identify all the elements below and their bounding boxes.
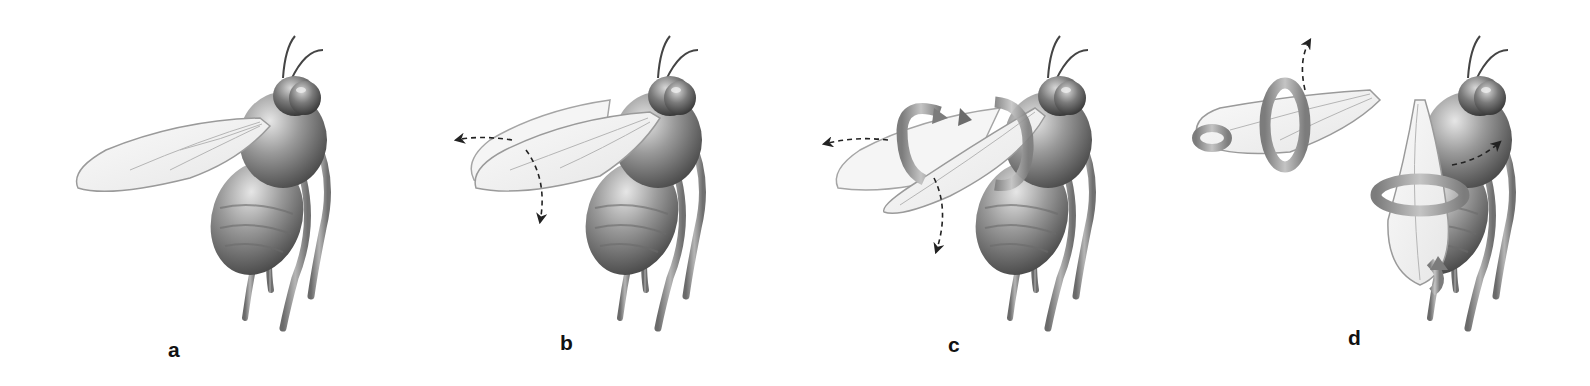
panel-b [450, 0, 710, 386]
panel-a [70, 0, 310, 386]
insect-illustration-a [70, 0, 310, 320]
insect-illustration-b [450, 0, 710, 320]
insect-illustration-d [1190, 0, 1520, 320]
insect-illustration-c [820, 0, 1100, 320]
panel-label-a: a [168, 338, 180, 362]
panel-c [820, 0, 1100, 386]
panel-label-d: d [1348, 326, 1361, 350]
dashed-arrow-upward [1302, 40, 1310, 90]
panel-label-b: b [560, 331, 573, 355]
panel-label-c: c [948, 333, 960, 357]
